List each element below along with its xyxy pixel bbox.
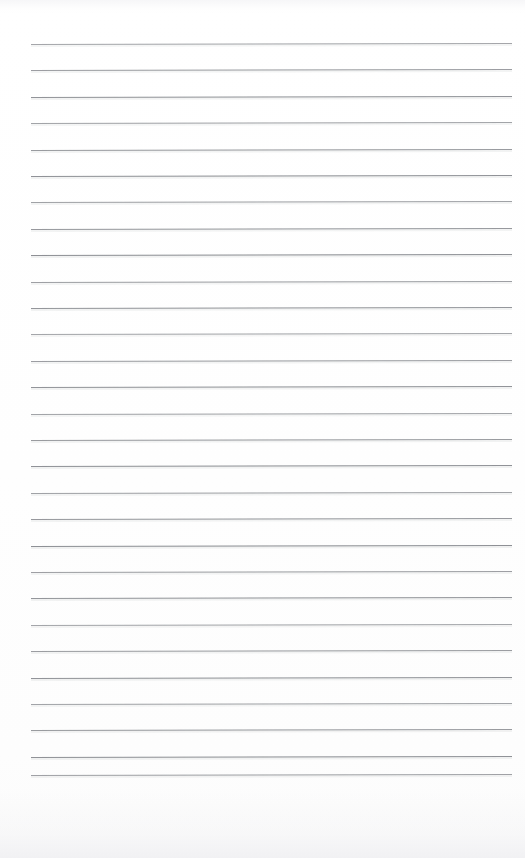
rule-line <box>31 201 512 203</box>
rule-line <box>31 650 512 652</box>
rule-line <box>31 281 512 283</box>
rule-line <box>31 69 512 71</box>
rule-line <box>31 571 512 573</box>
rule-line <box>31 413 512 415</box>
rule-line <box>31 774 512 776</box>
rule-line <box>31 597 512 599</box>
rule-line <box>31 122 512 124</box>
rule-line <box>31 360 512 362</box>
rule-line <box>31 703 512 705</box>
rule-line <box>31 756 512 758</box>
rule-line <box>31 96 512 98</box>
rule-line <box>31 729 512 731</box>
rule-line <box>31 465 512 467</box>
rule-line <box>31 677 512 679</box>
notepad-page <box>0 0 525 858</box>
ruled-lines-layer <box>0 0 525 858</box>
rule-line <box>31 254 512 256</box>
rule-line <box>31 175 512 177</box>
rule-line <box>31 333 512 335</box>
rule-line <box>31 228 512 230</box>
rule-line <box>31 545 512 547</box>
rule-line <box>31 43 512 45</box>
rule-line <box>31 518 512 520</box>
rule-line <box>31 624 512 626</box>
rule-line <box>31 492 512 494</box>
rule-line <box>31 439 512 441</box>
rule-line <box>31 149 512 151</box>
rule-line <box>31 307 512 309</box>
rule-line <box>31 386 512 388</box>
